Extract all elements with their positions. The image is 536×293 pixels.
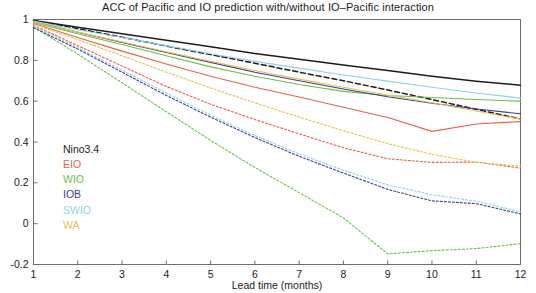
y-tick-label: 1: [23, 13, 29, 25]
x-axis-title: Lead time (months): [232, 279, 322, 291]
legend-item-eio: EIO: [63, 158, 81, 170]
series-line-wio-no-interaction: [34, 27, 521, 254]
plot-area: 10.80.60.40.20-0.2 123456789101112 Lead …: [0, 0, 536, 293]
y-tick-label: -0.2: [10, 258, 28, 270]
y-tick-label: 0.8: [14, 54, 29, 66]
chart-legend: Nino3.4EIOWIOIOBSWIOWA: [63, 143, 99, 231]
y-tick-label: 0.2: [14, 176, 29, 188]
x-tick-label: 2: [75, 268, 81, 280]
legend-item-nino3-4: Nino3.4: [63, 143, 99, 155]
y-axis-tick-labels: 10.80.60.40.20-0.2: [10, 13, 28, 270]
legend-item-wio: WIO: [63, 173, 84, 185]
series-line-swio-no-interaction: [34, 26, 521, 212]
series-line-nino3-4: [34, 21, 521, 86]
series-line-wa-no-interaction: [34, 24, 521, 166]
x-tick-label: 12: [515, 268, 527, 280]
x-tick-label: 7: [296, 268, 302, 280]
x-tick-label: 8: [340, 268, 346, 280]
series-line-swio: [34, 21, 521, 98]
data-series-group: [34, 21, 521, 254]
legend-item-wa: WA: [63, 219, 80, 231]
x-axis-ticks: [34, 261, 521, 265]
x-tick-label: 11: [471, 268, 482, 280]
x-tick-label: 3: [119, 268, 125, 280]
legend-item-swio: SWIO: [63, 204, 91, 216]
y-axis-ticks: [34, 20, 38, 265]
chart-root: ACC of Pacific and IO prediction with/wi…: [0, 0, 536, 293]
y-tick-label: 0.6: [14, 95, 29, 107]
legend-item-iob: IOB: [63, 188, 81, 200]
line-chart-svg: 10.80.60.40.20-0.2 123456789101112 Lead …: [0, 0, 536, 293]
y-tick-label: 0.4: [14, 136, 29, 148]
x-tick-label: 10: [426, 268, 438, 280]
x-tick-label: 5: [208, 268, 214, 280]
series-line-wa: [34, 22, 521, 119]
x-tick-label: 4: [163, 268, 169, 280]
x-tick-label: 9: [385, 268, 391, 280]
x-tick-label: 1: [31, 268, 37, 280]
x-tick-label: 6: [252, 268, 258, 280]
y-tick-label: 0: [23, 217, 29, 229]
x-axis-tick-labels: 123456789101112: [31, 268, 527, 280]
